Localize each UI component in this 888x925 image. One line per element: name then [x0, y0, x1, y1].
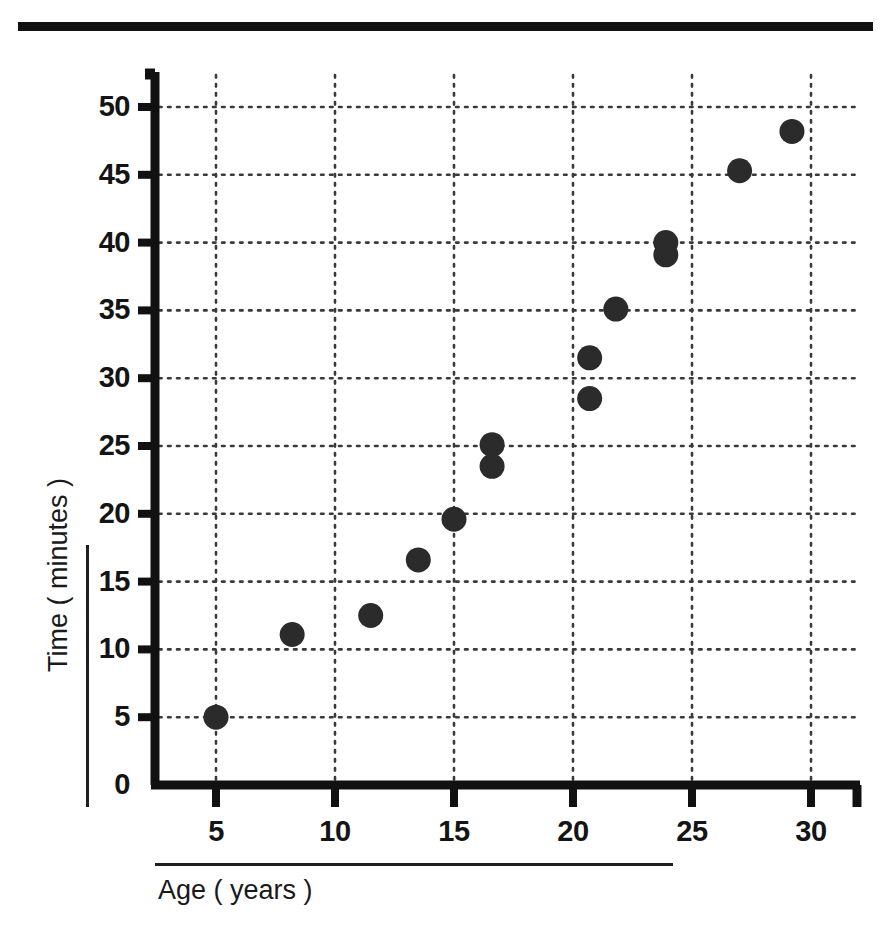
plot-axes — [0, 0, 888, 925]
y-tick-label: 40 — [60, 228, 130, 257]
x-tick-label: 30 — [776, 817, 846, 846]
y-tick-label: 0 — [60, 770, 130, 799]
x-axis-title-text: Age ( years ) — [158, 875, 313, 906]
y-tick-label: 30 — [60, 363, 130, 392]
page-root: 05101520253035404550 51015202530 Time ( … — [0, 0, 888, 925]
y-tick-label: 5 — [60, 702, 130, 731]
scatter-plot: 05101520253035404550 51015202530 Time ( … — [0, 0, 888, 925]
y-tick-label: 50 — [60, 92, 130, 121]
x-axis-title-rule — [155, 863, 673, 866]
y-tick-label: 35 — [60, 295, 130, 324]
x-tick-label: 25 — [657, 817, 727, 846]
x-tick-label: 15 — [419, 817, 489, 846]
x-tick-label: 20 — [538, 817, 608, 846]
x-tick-label: 10 — [300, 817, 370, 846]
y-tick-label: 45 — [60, 160, 130, 189]
x-tick-label: 5 — [181, 817, 251, 846]
y-axis-title-rule — [86, 545, 89, 807]
y-axis-title-text: Time ( minutes ) — [38, 455, 78, 695]
y-axis-title: Time ( minutes ) — [38, 455, 78, 695]
